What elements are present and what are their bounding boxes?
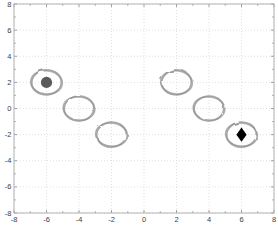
x-tick-label: 6	[239, 215, 243, 224]
y-tick-labels: -8-6-4-202468	[5, 0, 12, 218]
y-tick-label: 8	[7, 0, 11, 9]
x-tick-labels: -8-6-4-202468	[11, 215, 276, 224]
y-tick-label: 2	[7, 78, 11, 87]
filled-diamond-marker	[236, 127, 246, 141]
scatter-plot: -8-6-4-202468 -8-6-4-202468	[0, 0, 278, 232]
x-tick-label: -4	[76, 215, 83, 224]
y-tick-label: -6	[5, 182, 12, 191]
y-tick-label: 6	[7, 26, 11, 35]
grid-lines	[14, 4, 274, 213]
x-tick-label: -6	[43, 215, 50, 224]
y-tick-label: 0	[7, 104, 11, 113]
x-tick-label: 2	[174, 215, 178, 224]
y-tick-label: -4	[5, 156, 12, 165]
filled-dot-marker	[41, 77, 52, 88]
x-tick-label: -2	[108, 215, 115, 224]
y-tick-label: -2	[5, 130, 12, 139]
y-tick-label: 4	[7, 52, 11, 61]
y-tick-label: -8	[5, 209, 12, 218]
figure-canvas: -8-6-4-202468 -8-6-4-202468	[0, 0, 278, 232]
x-tick-label: 4	[207, 215, 211, 224]
x-tick-label: -8	[11, 215, 18, 224]
x-tick-label: 0	[142, 215, 146, 224]
x-tick-label: 8	[272, 215, 276, 224]
